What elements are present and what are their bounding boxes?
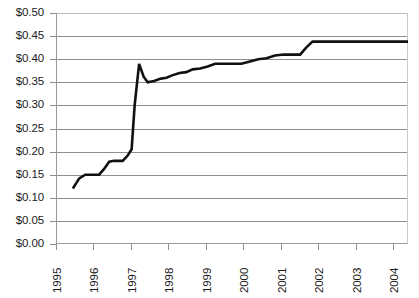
x-axis-tick bbox=[243, 244, 244, 250]
y-axis-tick bbox=[50, 221, 56, 222]
x-axis-tick bbox=[393, 244, 394, 250]
y-axis-tick bbox=[50, 13, 56, 14]
y-axis-tick bbox=[50, 36, 56, 37]
x-axis-tick-label: 1995 bbox=[52, 268, 64, 293]
y-axis-tick-label: $0.50 bbox=[0, 7, 44, 19]
data-series-line bbox=[56, 13, 408, 244]
y-axis-tick-label: $0.40 bbox=[0, 53, 44, 65]
x-axis-tick-label: 1999 bbox=[202, 268, 214, 293]
x-axis-tick bbox=[318, 244, 319, 250]
x-axis-tick bbox=[168, 244, 169, 250]
x-axis-tick-label: 1996 bbox=[89, 268, 101, 293]
y-axis-tick-labels: $0.50$0.45$0.40$0.35$0.30$0.25$0.20$0.15… bbox=[0, 0, 44, 298]
x-axis-tick-label: 2004 bbox=[389, 268, 401, 293]
x-axis-tick bbox=[56, 244, 57, 250]
x-axis-tick-label: 1998 bbox=[164, 268, 176, 293]
chart-title-remnant bbox=[0, 0, 419, 3]
y-axis-tick-label: $0.05 bbox=[0, 215, 44, 227]
x-axis-tick bbox=[93, 244, 94, 250]
y-axis-tick bbox=[50, 105, 56, 106]
y-axis-tick-label: $0.45 bbox=[0, 30, 44, 42]
x-axis-tick bbox=[281, 244, 282, 250]
y-axis-tick-label: $0.00 bbox=[0, 238, 44, 250]
y-axis-tick bbox=[50, 59, 56, 60]
x-axis-tick bbox=[206, 244, 207, 250]
y-axis-tick bbox=[50, 175, 56, 176]
y-axis-tick-label: $0.10 bbox=[0, 192, 44, 204]
x-axis-tick-label: 2000 bbox=[239, 268, 251, 293]
x-axis-tick bbox=[356, 244, 357, 250]
y-axis-tick-label: $0.35 bbox=[0, 76, 44, 88]
x-axis-tick-label: 2001 bbox=[277, 268, 289, 293]
x-axis-tick-label: 1997 bbox=[127, 268, 139, 293]
y-axis-tick bbox=[50, 82, 56, 83]
y-axis-tick-label: $0.20 bbox=[0, 146, 44, 158]
y-axis-tick-label: $0.15 bbox=[0, 169, 44, 181]
y-axis-tick bbox=[50, 198, 56, 199]
y-axis-tick-label: $0.30 bbox=[0, 99, 44, 111]
y-axis-tick bbox=[50, 152, 56, 153]
chart-screenshot: $0.50$0.45$0.40$0.35$0.30$0.25$0.20$0.15… bbox=[0, 0, 419, 298]
x-axis-tick bbox=[131, 244, 132, 250]
y-axis-tick bbox=[50, 129, 56, 130]
y-axis-tick-label: $0.25 bbox=[0, 123, 44, 135]
x-axis-tick-label: 2002 bbox=[314, 268, 326, 293]
x-axis-tick-label: 2003 bbox=[352, 268, 364, 293]
